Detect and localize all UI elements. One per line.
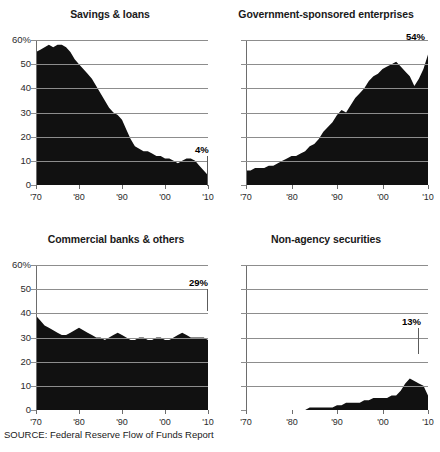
y-tick-mark [241, 362, 246, 363]
source-note: SOURCE: Federal Reserve Flow of Funds Re… [4, 429, 214, 440]
gridline [246, 113, 428, 114]
y-tick-mark [31, 265, 36, 266]
x-tick-mark [165, 185, 166, 189]
x-tick-mark [428, 410, 429, 414]
y-tick-mark [31, 313, 36, 314]
y-tick-mark [31, 88, 36, 89]
y-tick-mark [241, 88, 246, 89]
panel-title-non-agency-securities: Non-agency securities [216, 233, 436, 245]
gridline [36, 40, 208, 41]
x-tick-label: '90 [116, 193, 128, 202]
y-tick-mark [241, 40, 246, 41]
x-tick-mark [79, 185, 80, 189]
x-tick-mark [292, 410, 293, 414]
x-tick-label: '00 [159, 418, 171, 427]
plot-area-savings-and-loans: 60%50403020100'70'80'90'00'10 [36, 40, 208, 185]
x-tick-mark [428, 185, 429, 189]
x-tick-label: '90 [331, 418, 343, 427]
panel-title-gse: Government-sponsored enterprises [216, 8, 436, 20]
gridline [246, 265, 428, 266]
plot-area-gse: '70'80'90'00'10 [246, 40, 428, 185]
x-tick-label: '90 [331, 193, 343, 202]
y-tick-mark [241, 386, 246, 387]
gridline [36, 161, 208, 162]
gridline [246, 289, 428, 290]
y-tick-mark [241, 137, 246, 138]
callout-rule-savings-and-loans [207, 156, 208, 186]
x-tick-mark [246, 410, 247, 414]
panel-title-savings-and-loans: Savings & loans [0, 8, 220, 20]
y-tick-label: 0 [26, 405, 31, 415]
mortgage-market-share-figure: Savings & loans 60%50403020100'70'80'90'… [0, 0, 440, 452]
gridline [246, 137, 428, 138]
x-tick-label: '70 [30, 418, 42, 427]
callout-rule-commercial-banks [207, 289, 208, 311]
y-tick-label: 60% [12, 35, 31, 45]
y-tick-mark [241, 161, 246, 162]
gridline [246, 338, 428, 339]
panel-title-commercial-banks: Commercial banks & others [6, 233, 226, 245]
y-tick-label: 60% [12, 260, 31, 270]
y-tick-label: 10 [20, 156, 31, 166]
y-tick-label: 50 [20, 284, 31, 294]
x-tick-label: '80 [286, 418, 298, 427]
y-tick-mark [241, 313, 246, 314]
y-tick-mark [31, 137, 36, 138]
gridline [36, 88, 208, 89]
y-tick-mark [31, 40, 36, 41]
x-tick-label: '90 [116, 418, 128, 427]
y-tick-mark [241, 265, 246, 266]
gridline [246, 161, 428, 162]
y-tick-label: 20 [20, 132, 31, 142]
x-tick-label: '00 [159, 193, 171, 202]
x-tick-mark [79, 410, 80, 414]
gridline [36, 313, 208, 314]
y-tick-label: 10 [20, 381, 31, 391]
gridline [246, 88, 428, 89]
panel-commercial-banks: Commercial banks & others 60%50403020100… [0, 225, 220, 430]
gridline [246, 313, 428, 314]
gridline [36, 137, 208, 138]
y-tick-label: 30 [20, 333, 31, 343]
x-tick-label: '10 [422, 193, 434, 202]
plot-area-non-agency-securities: '70'80'90'00'10 [246, 265, 428, 410]
x-tick-mark [383, 410, 384, 414]
gridline [36, 362, 208, 363]
y-tick-mark [31, 64, 36, 65]
plot-area-commercial-banks: 60%50403020100'70'80'90'00'10 [36, 265, 208, 410]
x-tick-mark [36, 410, 37, 414]
x-tick-mark [122, 410, 123, 414]
gridline [36, 386, 208, 387]
x-tick-label: '10 [202, 193, 214, 202]
y-tick-mark [31, 113, 36, 114]
panel-non-agency-securities: Non-agency securities '70'80'90'00'10 13… [220, 225, 440, 430]
gridline [36, 113, 208, 114]
gridline [246, 64, 428, 65]
x-tick-mark [383, 185, 384, 189]
y-tick-mark [31, 289, 36, 290]
x-tick-label: '70 [240, 418, 252, 427]
x-tick-mark [208, 185, 209, 189]
x-tick-mark [122, 185, 123, 189]
y-tick-mark [241, 289, 246, 290]
y-tick-label: 0 [26, 180, 31, 190]
x-tick-mark [246, 185, 247, 189]
callout-savings-and-loans: 4% [195, 145, 209, 155]
gridline [36, 289, 208, 290]
callout-rule-non-agency-securities [418, 328, 419, 354]
x-tick-label: '00 [377, 418, 389, 427]
y-tick-mark [31, 362, 36, 363]
x-tick-mark [36, 185, 37, 189]
x-tick-label: '80 [73, 193, 85, 202]
x-tick-label: '00 [377, 193, 389, 202]
gridline [246, 40, 428, 41]
gridline [246, 362, 428, 363]
y-tick-label: 40 [20, 83, 31, 93]
y-tick-mark [241, 338, 246, 339]
y-tick-mark [241, 64, 246, 65]
gridline [36, 64, 208, 65]
x-tick-mark [165, 410, 166, 414]
y-tick-mark [31, 161, 36, 162]
x-tick-mark [208, 410, 209, 414]
y-tick-mark [31, 386, 36, 387]
